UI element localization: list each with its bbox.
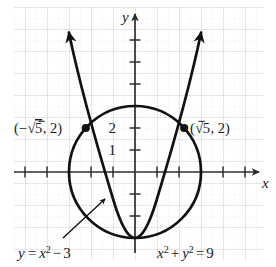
x-axis-label: x — [261, 175, 269, 191]
svg-text:(√5, 2): (√5, 2) — [190, 120, 230, 137]
svg-text:(−√5, 2): (−√5, 2) — [14, 120, 62, 137]
y-axis-label: y — [120, 9, 129, 25]
right-intersection-label: (√5, 2) — [190, 120, 230, 137]
parabola-equation-label: y=x2−3 — [16, 244, 71, 261]
graph-figure: y x 2 1 (−√5, 2) (√5, 2) y=x2−3 x2+y2=9 — [0, 0, 276, 267]
y-tick-label-1: 1 — [109, 142, 117, 158]
y-tick-label-2: 2 — [109, 120, 117, 136]
left-intersection-label: (−√5, 2) — [14, 120, 62, 137]
right-intersection-point — [180, 124, 188, 132]
left-intersection-point — [82, 124, 90, 132]
coordinate-plane-svg: y x 2 1 (−√5, 2) (√5, 2) y=x2−3 x2+y2=9 — [0, 0, 276, 267]
